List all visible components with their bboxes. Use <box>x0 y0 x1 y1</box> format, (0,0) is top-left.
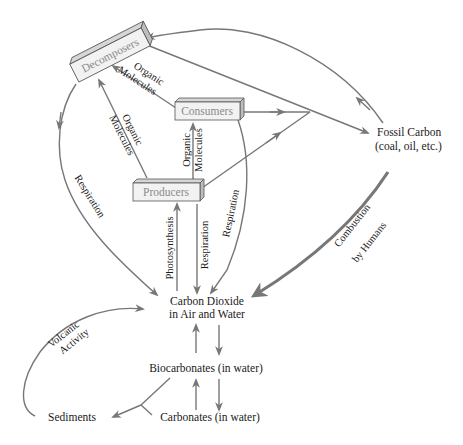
carbon-cycle-diagram: Decomposers Consumers Producers Fossil C… <box>0 0 463 445</box>
label-respiration-consumers: Respiration <box>220 188 241 238</box>
fossil-carbon-sublabel: (coal, oil, etc.) <box>375 140 442 153</box>
arrow-carb-fork <box>141 405 152 415</box>
producers-label: Producers <box>143 186 190 198</box>
co2-sublabel: in Air and Water <box>169 308 245 320</box>
fossil-carbon-label: Fossil Carbon <box>377 126 441 138</box>
arrow-fork-to-sediments <box>113 405 141 417</box>
consumers-box: Consumers <box>175 98 244 120</box>
arrow-volcanic-activity <box>24 308 143 416</box>
biocarbonates-label: Biocarbonates (in water) <box>149 362 263 375</box>
carbonates-label: Carbonates (in water) <box>160 411 260 424</box>
consumers-label: Consumers <box>181 105 233 117</box>
label-respiration-producers: Respiration <box>199 220 210 269</box>
sediments-label: Sediments <box>48 411 96 423</box>
label-molecules-producers-consumers: Molecules <box>193 128 204 172</box>
label-organic-producers-consumers: Organic <box>181 133 192 167</box>
arrow-bicarb-fork <box>141 378 170 405</box>
arrow-head-producers <box>266 133 280 143</box>
producers-box: Producers <box>133 179 204 201</box>
label-respiration-decomposers: Respiration <box>72 173 107 221</box>
label-photosynthesis: Photosynthesis <box>164 216 175 279</box>
arrow-producers-to-junction <box>202 112 310 188</box>
co2-label: Carbon Dioxide <box>170 295 244 307</box>
